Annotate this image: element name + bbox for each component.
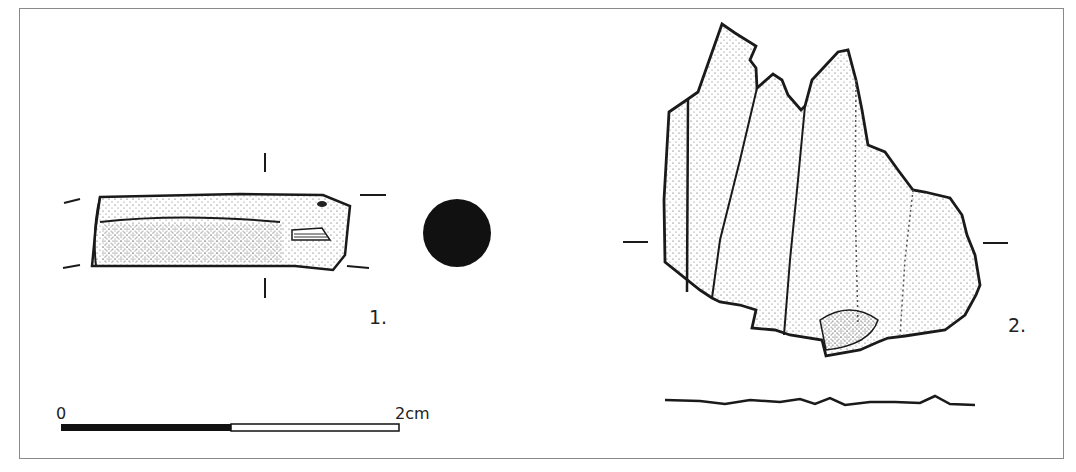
item-2-label: 2. bbox=[1008, 314, 1026, 336]
figure-drawing bbox=[0, 0, 1076, 472]
axis-tick bbox=[64, 199, 80, 203]
scale-start-label: 0 bbox=[56, 404, 66, 423]
rod-pit bbox=[317, 201, 327, 207]
rod-shading bbox=[102, 224, 282, 262]
item-1-rod-drawing bbox=[63, 153, 491, 298]
cluster-outline bbox=[664, 24, 980, 356]
item-2-cluster-drawing bbox=[623, 24, 1008, 405]
cluster-facet-line bbox=[687, 99, 688, 292]
item-1-label: 1. bbox=[369, 306, 387, 328]
scale-bar-black-segment bbox=[61, 424, 231, 431]
cluster-profile-line bbox=[665, 396, 975, 405]
scale-end-label: 2cm bbox=[395, 404, 430, 423]
axis-tick bbox=[347, 266, 369, 268]
scale-bar-white-segment bbox=[231, 424, 399, 431]
scale-bar bbox=[61, 424, 399, 431]
axis-tick bbox=[63, 265, 80, 268]
rod-cross-section bbox=[423, 199, 491, 267]
